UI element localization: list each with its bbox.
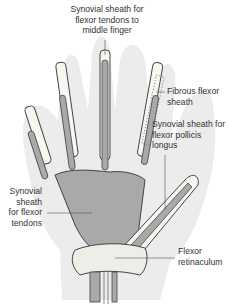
forearm-tendon (90, 272, 100, 302)
middle-finger-sheath (102, 60, 108, 170)
label-pollicis-longus-sheath: Synovial sheath for flexor pollicis long… (152, 119, 229, 151)
label-middle-finger-sheath: Synovial sheath for flexor tendons to mi… (62, 4, 152, 36)
label-flexor-retinaculum: Flexor retinaculum (178, 246, 229, 267)
label-flexor-tendons-sheath: Synovial sheath for flexor tendons (0, 186, 42, 228)
forearm-tendon (112, 272, 117, 302)
flexor-retinaculum-band (72, 244, 147, 275)
label-fibrous-flexor-sheath: Fibrous flexor sheath (167, 86, 229, 107)
